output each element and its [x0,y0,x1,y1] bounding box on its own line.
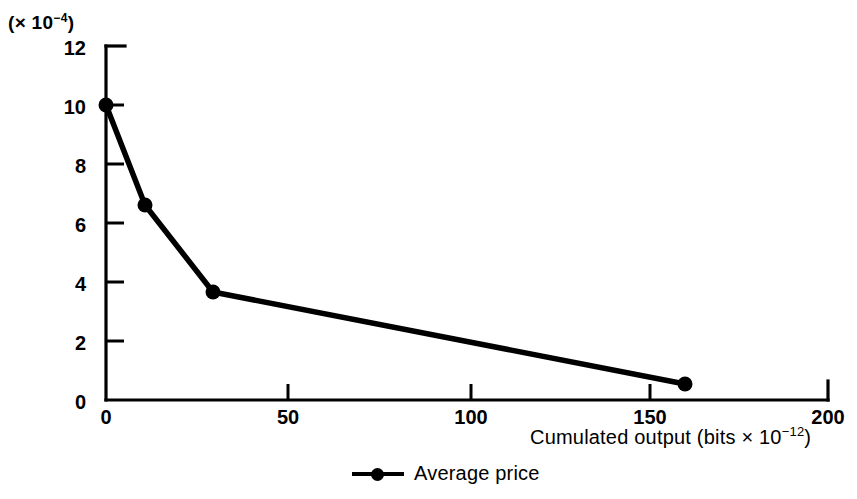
series-line [106,105,685,384]
series-average-price [99,98,693,392]
x-axis-title-exponent: −12 [782,424,805,439]
axis-spines [106,46,828,400]
plot-area [0,0,857,499]
x-axis-ticks [288,384,650,400]
x-axis-title-suffix: ) [804,426,811,448]
data-point-4 [678,377,693,392]
x-axis-title-prefix: Cumulated output (bits × 10 [530,426,782,448]
data-point-2 [138,198,153,213]
x-axis-title: Cumulated output (bits × 10−12) [530,426,811,449]
legend-label-average-price: Average price [414,462,540,485]
legend-marker-average-price [352,467,404,481]
data-point-1 [99,98,114,113]
legend: Average price [352,462,540,485]
legend-dot-icon [371,468,384,481]
data-point-3 [206,285,221,300]
chart-figure: (× 10−4) 12 10 8 6 4 2 0 0 50 100 150 20… [0,0,857,499]
